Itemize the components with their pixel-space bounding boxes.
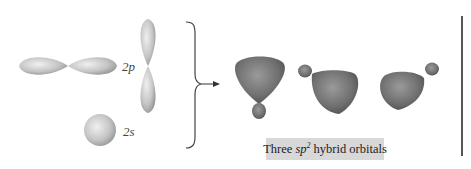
sp2-orbital-2 — [298, 65, 358, 115]
s-orbital-label: 2s — [123, 124, 135, 140]
sp2-orbital-3 — [380, 63, 439, 111]
orbitals-illustration — [0, 0, 471, 169]
p-orbital-label: 2p — [122, 59, 135, 75]
caption-suffix: hybrid orbitals — [314, 142, 387, 157]
caption-prefix: Three — [263, 142, 292, 157]
panel-divider — [461, 16, 463, 156]
p-orbital-vertical — [140, 19, 155, 113]
sp2-orbital-1 — [235, 57, 285, 120]
sp2-hybridization-diagram: 2p 2s Three sp2 hybrid orbitals — [0, 0, 471, 169]
grouping-brace — [186, 22, 201, 148]
hybrid-orbitals-caption: Three sp2 hybrid orbitals — [266, 138, 384, 160]
s-orbital — [84, 114, 116, 146]
caption-term: sp2 — [295, 141, 310, 157]
p-orbital-horizontal — [19, 57, 117, 74]
arrow-icon — [201, 81, 220, 87]
